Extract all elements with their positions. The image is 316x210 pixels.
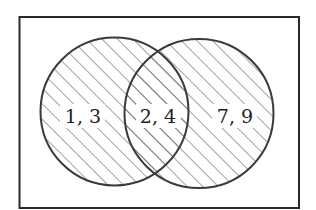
region-intersection-label: 2, 4 [140,105,176,127]
region-right-only-label: 7, 9 [217,105,253,127]
venn-diagram: 1, 3 2, 4 7, 9 [0,0,316,210]
region-left-only-label: 1, 3 [65,105,101,127]
